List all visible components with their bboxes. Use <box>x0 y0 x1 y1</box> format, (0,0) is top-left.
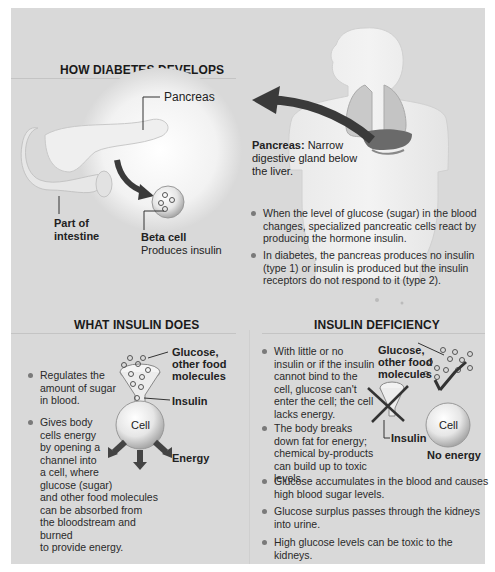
bullet-icon <box>262 349 267 354</box>
deficiency-bullet-3: Glucose accumulates in the blood and cau… <box>274 475 489 500</box>
no-energy-label: No energy <box>427 449 481 462</box>
deficiency-bullet-1: With little or no insulin or if the insu… <box>274 345 379 420</box>
deficiency-glucose-label-line3: molecules <box>378 368 432 381</box>
bullet-icon <box>262 479 267 484</box>
deficiency-bullet-4: Glucose surplus passes through the kidne… <box>274 505 489 530</box>
bullet-icon <box>262 540 267 545</box>
bullet-icon <box>262 426 267 431</box>
deficiency-cell-label: Cell <box>439 419 458 432</box>
deficiency-bullet-5: High glucose levels can be toxic to the … <box>274 536 489 561</box>
bullet-icon <box>262 509 267 514</box>
deficiency-insulin-label: Insulin <box>391 432 426 445</box>
